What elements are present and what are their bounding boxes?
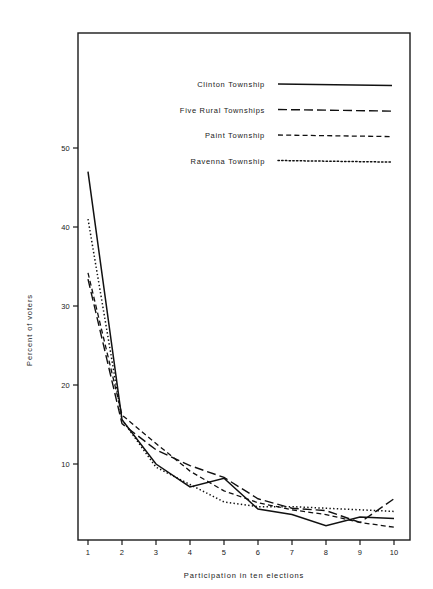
data-series-group [88, 172, 394, 528]
series-line-clinton-township [88, 172, 394, 526]
legend-swatch-five-rural-townships [278, 110, 392, 112]
y-axis-ticks: 1020304050 [61, 144, 78, 469]
series-line-paint-township [88, 273, 394, 527]
legend-label-five-rural-townships: Five Rural Townships [180, 106, 265, 115]
x-axis-ticks: 12345678910 [86, 540, 399, 557]
x-tick-label: 8 [324, 548, 328, 557]
legend-label-paint-township: Paint Township [205, 131, 265, 140]
legend-swatch-ravenna-township [278, 161, 392, 163]
y-tick-label: 30 [61, 302, 70, 311]
x-tick-label: 2 [120, 548, 124, 557]
x-tick-label: 4 [188, 548, 192, 557]
legend-label-ravenna-township: Ravenna Township [191, 157, 265, 166]
y-axis-title: Percent of voters [25, 294, 34, 366]
legend-swatch-paint-township [278, 135, 392, 137]
y-tick-label: 40 [61, 223, 70, 232]
x-tick-label: 1 [86, 548, 90, 557]
series-line-ravenna-township [88, 219, 394, 511]
x-tick-label: 3 [154, 548, 158, 557]
figure: 1020304050 12345678910 Clinton TownshipF… [0, 0, 433, 589]
legend-label-clinton-township: Clinton Township [197, 80, 265, 89]
y-tick-label: 20 [61, 381, 70, 390]
y-tick-label: 10 [61, 460, 70, 469]
line-chart: 1020304050 12345678910 Clinton TownshipF… [0, 0, 433, 589]
x-tick-label: 9 [358, 548, 362, 557]
series-line-five-rural-townships [88, 279, 394, 522]
legend-swatch-clinton-township [278, 84, 392, 86]
y-tick-label: 50 [61, 144, 70, 153]
page-header [0, 0, 433, 10]
chart-legend: Clinton TownshipFive Rural TownshipsPain… [180, 80, 392, 166]
x-tick-label: 6 [256, 548, 260, 557]
x-tick-label: 10 [390, 548, 399, 557]
x-tick-label: 7 [290, 548, 294, 557]
x-axis-title: Participation in ten elections [184, 571, 304, 580]
x-tick-label: 5 [222, 548, 226, 557]
